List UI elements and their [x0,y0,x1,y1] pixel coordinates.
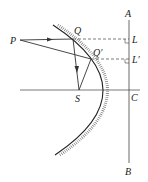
ray-QS [73,39,79,90]
label-L-prime: L′ [131,54,141,65]
label-A: A [124,8,132,19]
label-B: B [125,166,131,177]
right-angle-Lp [125,59,129,63]
label-Q: Q [74,25,82,36]
arrow-PQ [47,38,53,42]
parabola-diagram: A B C L L′ P Q Q′ S [0,0,148,182]
label-C: C [131,92,138,103]
right-angle-L [125,39,129,43]
label-P: P [9,35,16,46]
arrow-QS [75,66,80,73]
label-L: L [131,34,138,45]
ray-QpS [79,59,91,90]
ray-PQ [20,39,73,40]
label-S: S [75,93,80,104]
label-Q-prime: Q′ [93,47,103,58]
